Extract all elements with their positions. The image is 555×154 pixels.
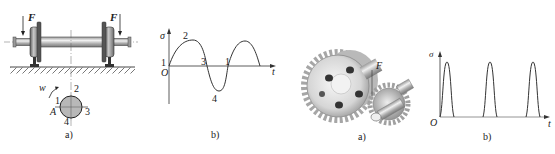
right-journal: [112, 39, 129, 46]
left-force-arrow: [21, 16, 25, 36]
left-force-label: F: [27, 11, 36, 23]
right-wheel: [102, 22, 114, 62]
axle: [38, 37, 106, 47]
curve-point-3: 3: [201, 56, 206, 67]
section-point-1: 1: [55, 95, 60, 106]
curve-point-2: 2: [183, 30, 188, 41]
pulse-curve: [440, 62, 540, 117]
figure-canvas: F F w 2 1 3 4 A a) σ t O 1 2 3 4 1: [0, 0, 555, 154]
gear-pair-illustration: F a): [304, 50, 414, 143]
sigma-label: σ: [160, 30, 166, 41]
section-point-3: 3: [85, 106, 90, 117]
pulse-sigma-label: σ: [429, 49, 434, 59]
left-journal-collar: [13, 37, 16, 47]
pulse-origin-label: O: [430, 117, 437, 128]
section-point-2: 2: [74, 83, 79, 94]
right-force-arrow: [118, 14, 122, 36]
left-rail-support: [33, 57, 36, 65]
rotation-arrow-head: [55, 87, 59, 91]
left-caption-a: a): [65, 129, 73, 141]
sine-curve: [169, 40, 260, 91]
left-caption-b: b): [211, 129, 219, 141]
left-wheel: [30, 22, 41, 62]
right-force-label: F: [109, 11, 118, 23]
right-caption-a: a): [358, 131, 366, 143]
curve-point-1-end: 1: [225, 56, 230, 67]
time-label: t: [272, 66, 275, 77]
origin-label: O: [161, 67, 168, 78]
pulse-time-label: t: [548, 118, 551, 129]
gear-force-label: F: [375, 60, 383, 71]
right-journal-collar: [128, 37, 131, 47]
rotation-label: w: [39, 82, 46, 93]
pulse-sigma-arrow-icon: [438, 51, 442, 57]
section-point-4: 4: [64, 116, 69, 127]
left-journal: [15, 39, 32, 46]
pulsating-stress-graph: σ t O b): [429, 49, 551, 143]
point-A-label: A: [49, 106, 57, 117]
curve-point-1-start: 1: [161, 57, 166, 68]
wheelset-diagram: F F w 2 1 3 4 A a): [4, 11, 138, 141]
right-rail-support: [108, 57, 111, 65]
curve-point-4: 4: [212, 93, 217, 104]
sigma-axis-arrow-icon: [167, 28, 171, 34]
sinusoidal-stress-graph: σ t O 1 2 3 4 1 b): [160, 28, 276, 141]
right-caption-b: b): [483, 131, 491, 143]
ground-hatching: [10, 68, 135, 74]
large-gear: [304, 50, 378, 120]
